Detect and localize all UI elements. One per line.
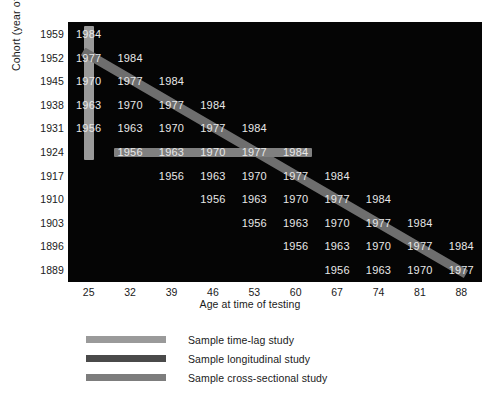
testing-year-cell: 1970: [233, 169, 275, 183]
legend-swatch: [86, 336, 166, 343]
testing-year-cell: 1963: [316, 239, 358, 253]
testing-year-cell: 1956: [151, 169, 193, 183]
x-tick-label: 60: [275, 285, 317, 299]
testing-year-cell: 1977: [68, 51, 110, 65]
testing-year-cell: 1984: [233, 121, 275, 135]
x-axis-title: Age at time of testing: [0, 298, 500, 310]
highlight-bar-time-lag: [84, 26, 94, 160]
testing-year-cell: 1970: [275, 192, 317, 206]
legend-swatch: [86, 374, 166, 381]
y-axis-tick-labels: 1959195219451938193119241917191019031896…: [28, 22, 64, 282]
legend-item: Sample cross-sectional study: [86, 368, 426, 387]
testing-year-cell: 1977: [151, 98, 193, 112]
testing-year-cell: 1977: [440, 263, 482, 277]
testing-year-cell: 1977: [192, 121, 234, 135]
testing-year-cell: 1977: [358, 216, 400, 230]
x-axis-tick-labels: 25323946536067748188: [68, 285, 482, 299]
legend-label: Sample cross-sectional study: [188, 372, 327, 384]
testing-year-cell: 1970: [68, 74, 110, 88]
x-tick-label: 46: [192, 285, 234, 299]
legend-item: Sample time-lag study: [86, 330, 426, 349]
y-tick-label: 1924: [28, 145, 64, 159]
testing-year-cell: 1970: [316, 216, 358, 230]
testing-year-cell: 1977: [233, 145, 275, 159]
legend-label: Sample time-lag study: [188, 334, 294, 346]
y-axis-title: Cohort (year of birth): [10, 0, 26, 71]
testing-year-cell: 1963: [275, 216, 317, 230]
testing-year-cell: 1956: [233, 216, 275, 230]
legend-swatch: [86, 355, 166, 362]
y-tick-label: 1903: [28, 216, 64, 230]
x-tick-label: 74: [358, 285, 400, 299]
testing-year-cell: 1970: [109, 98, 151, 112]
legend: Sample time-lag studySample longitudinal…: [86, 330, 426, 387]
testing-year-cell: 1970: [358, 239, 400, 253]
testing-year-cell: 1970: [151, 121, 193, 135]
y-tick-label: 1945: [28, 74, 64, 88]
x-tick-label: 32: [109, 285, 151, 299]
testing-year-cell: 1984: [275, 145, 317, 159]
y-tick-label: 1952: [28, 51, 64, 65]
testing-year-cell: 1977: [275, 169, 317, 183]
testing-year-cell: 1984: [192, 98, 234, 112]
x-tick-label: 88: [440, 285, 482, 299]
testing-year-cell: 1956: [109, 145, 151, 159]
testing-year-cell: 1984: [109, 51, 151, 65]
legend-label: Sample longitudinal study: [188, 353, 310, 365]
testing-year-cell: 1984: [399, 216, 441, 230]
x-tick-label: 53: [233, 285, 275, 299]
testing-year-cell: 1956: [275, 239, 317, 253]
testing-year-cell: 1984: [68, 27, 110, 41]
testing-year-cell: 1984: [151, 74, 193, 88]
testing-year-cell: 1963: [192, 169, 234, 183]
testing-year-cell: 1977: [316, 192, 358, 206]
testing-year-cell: 1956: [192, 192, 234, 206]
testing-year-cell: 1963: [233, 192, 275, 206]
y-tick-label: 1889: [28, 263, 64, 277]
cohort-sequential-design-figure: Cohort (year of birth) 19591952194519381…: [0, 0, 500, 402]
y-tick-label: 1896: [28, 239, 64, 253]
x-tick-label: 39: [151, 285, 193, 299]
y-tick-label: 1917: [28, 169, 64, 183]
testing-year-cell: 1963: [151, 145, 193, 159]
y-tick-label: 1959: [28, 27, 64, 41]
testing-year-cell: 1963: [68, 98, 110, 112]
testing-year-cell: 1984: [440, 239, 482, 253]
testing-year-cell: 1963: [358, 263, 400, 277]
testing-year-cell: 1970: [192, 145, 234, 159]
legend-item: Sample longitudinal study: [86, 349, 426, 368]
y-tick-label: 1938: [28, 98, 64, 112]
x-tick-label: 25: [68, 285, 110, 299]
testing-year-cell: 1984: [316, 169, 358, 183]
testing-year-cell: 1963: [109, 121, 151, 135]
x-tick-label: 67: [316, 285, 358, 299]
y-tick-label: 1931: [28, 121, 64, 135]
plot-panel: 1984197719841970197719841963197019771984…: [68, 22, 482, 282]
testing-year-cell: 1956: [316, 263, 358, 277]
x-tick-label: 81: [399, 285, 441, 299]
testing-year-cell: 1977: [399, 239, 441, 253]
testing-year-cell: 1956: [68, 121, 110, 135]
testing-year-cell: 1970: [399, 263, 441, 277]
testing-year-cell: 1984: [358, 192, 400, 206]
y-tick-label: 1910: [28, 192, 64, 206]
testing-year-cell: 1977: [109, 74, 151, 88]
